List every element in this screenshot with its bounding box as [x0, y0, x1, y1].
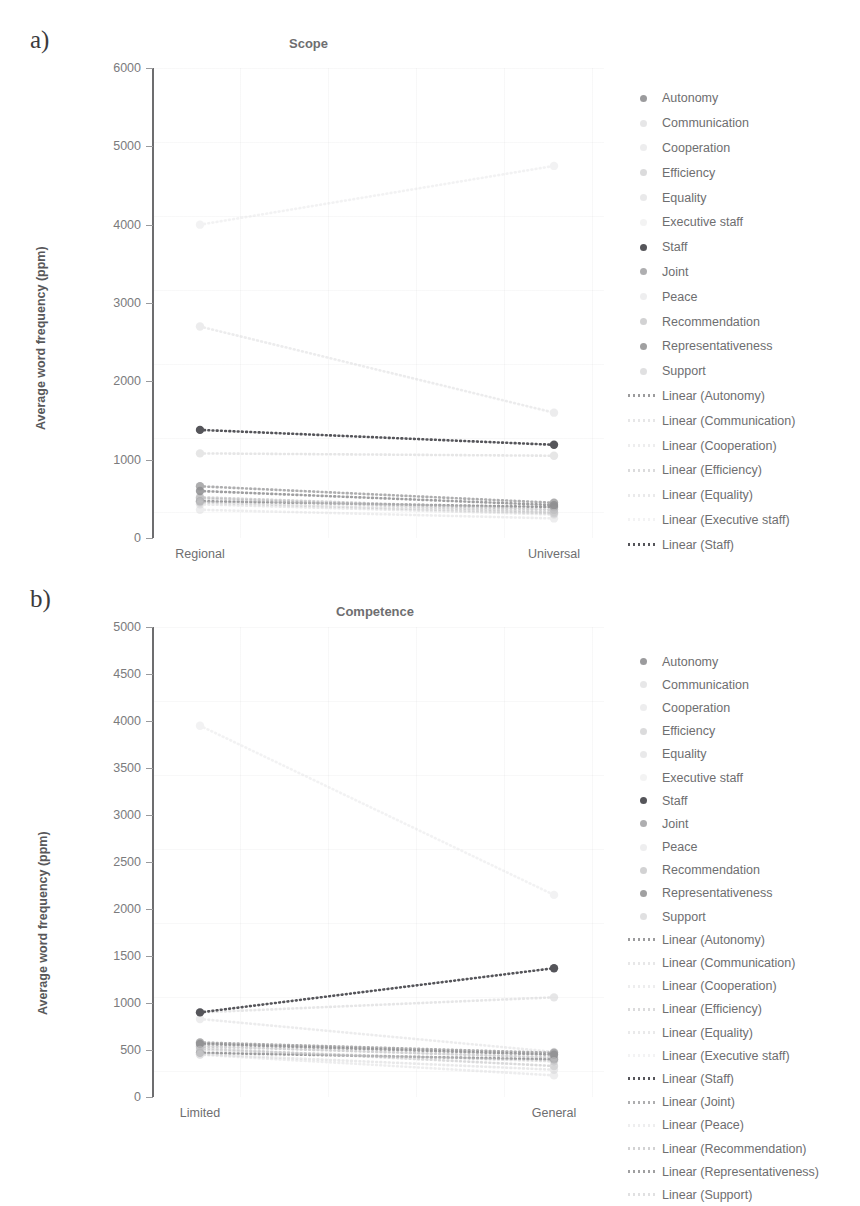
legend-label: Recommendation [660, 315, 760, 329]
legend-item-communication[interactable]: Communication [626, 111, 795, 136]
y-tick-label: 0 [134, 1090, 141, 1104]
legend-marker-dot-icon [626, 316, 660, 328]
legend-item-linear-staff[interactable]: Linear (Staff) [626, 532, 795, 557]
legend-item-staff[interactable]: Staff [626, 789, 819, 812]
y-tick-label: 6000 [113, 61, 141, 75]
legend-label: Linear (Equality) [660, 1026, 753, 1040]
legend-item-linear-efficiency[interactable]: Linear (Efficiency) [626, 458, 795, 483]
y-tick-label: 5000 [113, 620, 141, 634]
legend-label: Linear (Communication) [660, 956, 795, 970]
legend-marker-dot-icon [626, 365, 660, 377]
legend-item-peace[interactable]: Peace [626, 284, 795, 309]
y-tick-mark [146, 956, 153, 957]
legend-trendline-icon [626, 1189, 660, 1201]
legend-item-support[interactable]: Support [626, 905, 819, 928]
legend-item-linear-communication[interactable]: Linear (Communication) [626, 951, 819, 974]
y-tick-label: 3500 [113, 761, 141, 775]
legend-item-linear-executive-staff[interactable]: Linear (Executive staff) [626, 1044, 819, 1067]
legend-trendline-icon [626, 1143, 660, 1155]
legend-item-linear-staff[interactable]: Linear (Staff) [626, 1067, 819, 1090]
legend-item-autonomy[interactable]: Autonomy [626, 86, 795, 111]
legend-item-linear-equality[interactable]: Linear (Equality) [626, 483, 795, 508]
y-tick-label: 1000 [113, 996, 141, 1010]
legend-item-linear-communication[interactable]: Linear (Communication) [626, 408, 795, 433]
legend-item-cooperation[interactable]: Cooperation [626, 136, 795, 161]
panel-b-series-layer [152, 627, 604, 1097]
y-tick-label: 3000 [113, 808, 141, 822]
legend-item-representativeness[interactable]: Representativeness [626, 882, 819, 905]
legend-item-joint[interactable]: Joint [626, 812, 819, 835]
legend-item-peace[interactable]: Peace [626, 836, 819, 859]
legend-item-efficiency[interactable]: Efficiency [626, 160, 795, 185]
panel-b-letter: b) [30, 585, 51, 613]
legend-item-linear-cooperation[interactable]: Linear (Cooperation) [626, 975, 819, 998]
legend-trendline-icon [626, 489, 660, 501]
legend-item-cooperation[interactable]: Cooperation [626, 696, 819, 719]
legend-label: Staff [660, 794, 687, 808]
legend-item-joint[interactable]: Joint [626, 260, 795, 285]
panel-b-y-axis-label: Average word frequency (ppm) [36, 831, 50, 1015]
legend-item-linear-autonomy[interactable]: Linear (Autonomy) [626, 384, 795, 409]
legend-marker-dot-icon [626, 772, 660, 784]
legend-item-linear-representativeness[interactable]: Linear (Representativeness) [626, 1160, 819, 1183]
legend-label: Linear (Efficiency) [660, 463, 762, 477]
legend-item-autonomy[interactable]: Autonomy [626, 650, 819, 673]
legend-trendline-icon [626, 957, 660, 969]
legend-item-recommendation[interactable]: Recommendation [626, 859, 819, 882]
series-executive-staff [196, 162, 558, 229]
y-tick-mark [146, 460, 153, 461]
x-category-label: Regional [175, 547, 224, 561]
legend-item-communication[interactable]: Communication [626, 673, 819, 696]
x-category-label: General [532, 1106, 576, 1120]
legend-trendline-icon [626, 464, 660, 476]
legend-item-linear-equality[interactable]: Linear (Equality) [626, 1021, 819, 1044]
legend-item-executive-staff[interactable]: Executive staff [626, 210, 795, 235]
legend-trendline-icon [626, 1003, 660, 1015]
legend-marker-dot-icon [626, 241, 660, 253]
legend-marker-dot-icon [626, 911, 660, 923]
legend-item-efficiency[interactable]: Efficiency [626, 720, 819, 743]
y-tick-mark [146, 303, 153, 304]
legend-item-executive-staff[interactable]: Executive staff [626, 766, 819, 789]
legend-label: Recommendation [660, 863, 760, 877]
y-tick-mark [146, 1050, 153, 1051]
y-tick-mark [146, 68, 153, 69]
legend-label: Equality [660, 747, 706, 761]
legend-label: Executive staff [660, 215, 743, 229]
legend-item-linear-autonomy[interactable]: Linear (Autonomy) [626, 928, 819, 951]
legend-marker-dot-icon [626, 864, 660, 876]
legend-marker-dot-icon [626, 266, 660, 278]
legend-item-linear-efficiency[interactable]: Linear (Efficiency) [626, 998, 819, 1021]
legend-item-linear-support[interactable]: Linear (Support) [626, 1183, 819, 1206]
legend-item-recommendation[interactable]: Recommendation [626, 309, 795, 334]
panel-b-title: Competence [336, 604, 414, 619]
legend-trendline-icon [626, 415, 660, 427]
legend-label: Staff [660, 240, 687, 254]
legend-item-staff[interactable]: Staff [626, 235, 795, 260]
legend-label: Linear (Peace) [660, 1118, 744, 1132]
legend-label: Linear (Recommendation) [660, 1142, 807, 1156]
y-tick-label: 2500 [113, 855, 141, 869]
legend-item-linear-cooperation[interactable]: Linear (Cooperation) [626, 433, 795, 458]
legend-trendline-icon [626, 514, 660, 526]
y-tick-mark [146, 381, 153, 382]
legend-label: Cooperation [660, 141, 730, 155]
legend-item-linear-recommendation[interactable]: Linear (Recommendation) [626, 1137, 819, 1160]
legend-marker-dot-icon [626, 818, 660, 830]
legend-item-equality[interactable]: Equality [626, 185, 795, 210]
legend-item-linear-executive-staff[interactable]: Linear (Executive staff) [626, 508, 795, 533]
y-tick-label: 4000 [113, 714, 141, 728]
legend-item-representativeness[interactable]: Representativeness [626, 334, 795, 359]
legend-item-linear-joint[interactable]: Linear (Joint) [626, 1091, 819, 1114]
y-tick-mark [146, 721, 153, 722]
legend-label: Efficiency [660, 166, 715, 180]
legend-marker-dot-icon [626, 216, 660, 228]
legend-item-support[interactable]: Support [626, 359, 795, 384]
y-tick-label: 4500 [113, 667, 141, 681]
panel-a-plot-area: 0100020003000400050006000 RegionalUniver… [152, 68, 604, 538]
legend-label: Linear (Cooperation) [660, 979, 777, 993]
legend-item-linear-peace[interactable]: Linear (Peace) [626, 1114, 819, 1137]
legend-item-equality[interactable]: Equality [626, 743, 819, 766]
legend-marker-dot-icon [626, 748, 660, 760]
